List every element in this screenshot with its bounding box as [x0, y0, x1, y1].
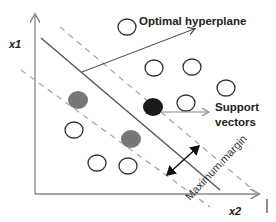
data-point-gray [121, 130, 141, 148]
class-b-points [68, 91, 163, 148]
support-vectors-label-line1: Support [215, 101, 259, 113]
data-point-open [88, 155, 106, 171]
svm-diagram: x1 x2 Optimal hyperplane Support vectors… [0, 0, 276, 222]
lower-margin-line [21, 70, 210, 207]
data-point-open [118, 19, 136, 35]
support-vectors-label-line2: vectors [215, 116, 256, 128]
data-point-open [145, 60, 163, 76]
class-a-points [65, 19, 235, 174]
data-point-open [177, 95, 195, 111]
data-point-open [119, 158, 137, 174]
data-point-open [183, 59, 201, 75]
margin-double-arrow [167, 146, 199, 175]
support-vector-black [143, 98, 163, 116]
hyperplane-label: Optimal hyperplane [139, 15, 246, 27]
x-axis-label: x2 [228, 205, 241, 217]
data-point-open [217, 80, 235, 96]
data-point-open [65, 122, 83, 138]
hyperplane-pointer-arrow [82, 29, 194, 72]
y-axis-label: x1 [8, 38, 21, 50]
data-point-gray [68, 91, 88, 109]
